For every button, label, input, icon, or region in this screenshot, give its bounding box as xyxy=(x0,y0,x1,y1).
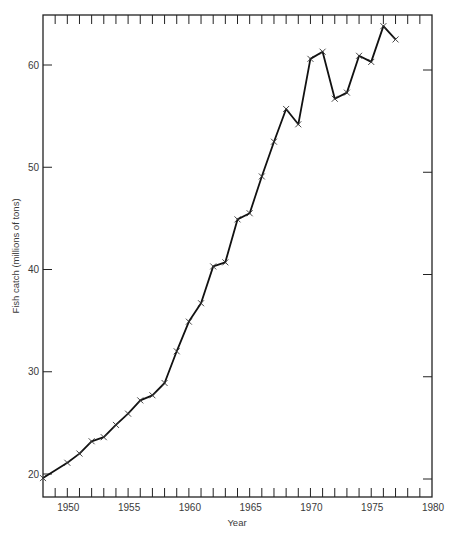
x-tick-label: 1980 xyxy=(422,502,445,513)
y-tick-label: 50 xyxy=(28,162,40,173)
x-axis-title: Year xyxy=(227,517,246,528)
x-tick-label: 1950 xyxy=(57,502,80,513)
x-marker-icon xyxy=(76,451,82,457)
y-ticks xyxy=(43,65,432,479)
x-marker-icon xyxy=(64,460,70,466)
x-tick-label: 1970 xyxy=(300,502,323,513)
plot-frame xyxy=(43,15,432,497)
data-markers xyxy=(40,23,399,481)
x-minor-ticks xyxy=(55,15,420,497)
x-tick-labels: 1950195519601965197019751980 xyxy=(57,502,444,513)
y-axis-title: Fish catch (millions of tons) xyxy=(10,198,21,313)
x-marker-icon xyxy=(125,411,131,417)
data-line xyxy=(43,26,396,478)
fish-catch-chart: 1950195519601965197019751980 2030405060 … xyxy=(0,0,452,536)
y-tick-label: 20 xyxy=(28,469,40,480)
x-tick-label: 1960 xyxy=(179,502,202,513)
y-tick-label: 30 xyxy=(28,366,40,377)
x-marker-icon xyxy=(113,422,119,428)
x-tick-label: 1955 xyxy=(118,502,141,513)
x-marker-icon xyxy=(393,36,399,42)
y-tick-labels: 2030405060 xyxy=(28,60,40,480)
y-tick-label: 60 xyxy=(28,60,40,71)
x-tick-label: 1965 xyxy=(240,502,263,513)
y-tick-label: 40 xyxy=(28,264,40,275)
x-tick-label: 1975 xyxy=(361,502,384,513)
